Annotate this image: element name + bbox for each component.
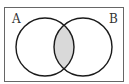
label-a: A — [11, 12, 21, 26]
venn-diagram: A B — [0, 0, 129, 84]
label-b: B — [109, 12, 118, 26]
